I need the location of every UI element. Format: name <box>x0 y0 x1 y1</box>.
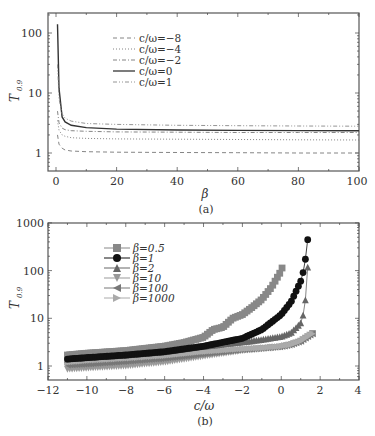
xtick-label: −2 <box>234 384 250 397</box>
y-axis-label-a: T 0.9 <box>8 79 24 102</box>
data-marker <box>113 244 121 252</box>
data-marker <box>113 294 121 302</box>
caption-b: (b) <box>197 415 213 428</box>
ytick-label: 100 <box>21 27 42 40</box>
data-marker <box>300 312 307 319</box>
legend-label: c/ω=1 <box>139 76 172 88</box>
data-marker <box>300 269 307 276</box>
xtick-label: −8 <box>118 384 134 397</box>
data-marker <box>304 264 311 271</box>
xtick-label: 40 <box>170 175 184 188</box>
ytick-label: 1000 <box>16 217 44 230</box>
caption-a: (a) <box>198 203 213 216</box>
x-axis-label-b: c/ω <box>194 399 215 413</box>
legend-a: c/ω=−8 c/ω=−4 c/ω=−2 c/ω=0 c/ω=1 <box>113 32 182 88</box>
y-axis-label-b: T 0.9 <box>8 286 24 309</box>
xtick-label: −4 <box>195 384 211 397</box>
ytick-label: 10 <box>30 312 44 325</box>
svg-text:0.9: 0.9 <box>16 286 24 298</box>
data-marker <box>302 297 309 304</box>
legend-label: β=1000 <box>132 292 175 304</box>
ytick-label: 100 <box>23 265 44 278</box>
xtick-label: −10 <box>75 384 98 397</box>
xtick-label: 100 <box>347 175 368 188</box>
data-marker <box>113 284 121 292</box>
ytick-label: 1 <box>37 360 44 373</box>
data-marker <box>279 265 286 272</box>
svg-text:0.9: 0.9 <box>16 79 24 91</box>
series-line <box>58 135 360 153</box>
xtick-label: −12 <box>36 384 59 397</box>
panel-a: 1 10 100 0 20 40 60 80 100 T 0.9 β (a) c… <box>8 13 368 216</box>
data-marker <box>113 254 121 262</box>
xtick-label: 0 <box>53 175 60 188</box>
xtick-label: 0 <box>278 384 285 397</box>
figure: 1 10 100 0 20 40 60 80 100 T 0.9 β (a) c… <box>0 0 375 436</box>
data-marker <box>297 278 304 285</box>
legend-b: β=0.5 β=1 β=2 β=10 β=100 β=1000 <box>104 242 175 304</box>
ytick-label: 1 <box>35 147 42 160</box>
series-line <box>58 24 360 131</box>
ytick-label: 10 <box>28 87 42 100</box>
xtick-label: 2 <box>317 384 324 397</box>
panel-b: 1 10 100 1000 −12 −10 −8 −6 −4 −2 0 2 4 … <box>8 217 362 428</box>
xtick-label: 20 <box>110 175 124 188</box>
xtick-label: 60 <box>231 175 245 188</box>
series-line <box>58 64 360 126</box>
xtick-label: 4 <box>355 384 362 397</box>
xtick-label: −6 <box>156 384 172 397</box>
data-marker <box>302 256 309 263</box>
series-line <box>58 111 360 132</box>
svg-text:T: T <box>8 300 22 309</box>
x-axis-label-a: β <box>201 187 209 201</box>
data-marker <box>304 236 311 243</box>
svg-text:T: T <box>8 93 22 102</box>
plot-frame-a <box>48 13 359 171</box>
xtick-label: 80 <box>291 175 305 188</box>
